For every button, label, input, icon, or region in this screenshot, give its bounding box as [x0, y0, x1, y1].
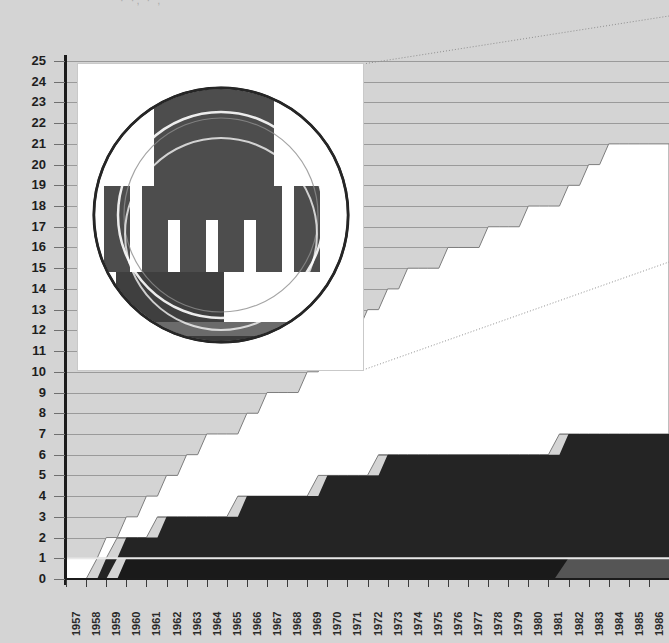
y-tick-10 — [54, 372, 65, 373]
x-axis-label-1973: 1973 — [392, 612, 404, 636]
x-axis-label-1965: 1965 — [231, 612, 243, 636]
x-axis-label-1979: 1979 — [512, 612, 524, 636]
y-tick-1 — [54, 558, 65, 559]
y-axis-label-9: 9 — [18, 387, 46, 399]
y-tick-4 — [54, 496, 65, 497]
x-tick-1957 — [66, 580, 67, 587]
y-axis-label-6: 6 — [18, 449, 46, 461]
y-tick-7 — [54, 434, 65, 435]
x-axis-label-1964: 1964 — [211, 612, 223, 636]
x-tick-1970 — [327, 580, 328, 587]
x-tick-1966 — [247, 580, 248, 587]
x-axis-label-1957: 1957 — [70, 612, 82, 636]
x-axis-label-1985: 1985 — [633, 612, 645, 636]
y-axis-label-16: 16 — [18, 241, 46, 253]
y-tick-6 — [54, 455, 65, 456]
x-axis-label-1962: 1962 — [171, 612, 183, 636]
x-tick-1969 — [307, 580, 308, 587]
y-tick-25 — [54, 61, 65, 62]
x-axis-label-1968: 1968 — [291, 612, 303, 636]
y-tick-11 — [54, 351, 65, 352]
x-axis-label-1983: 1983 — [593, 612, 605, 636]
x-axis-label-1967: 1967 — [271, 612, 283, 636]
x-tick-1976 — [448, 580, 449, 587]
x-tick-1968 — [287, 580, 288, 587]
x-axis-label-1984: 1984 — [613, 612, 625, 636]
y-axis-label-1: 1 — [18, 552, 46, 564]
x-axis-label-1974: 1974 — [412, 612, 424, 636]
y-tick-20 — [54, 165, 65, 166]
x-axis-label-1978: 1978 — [492, 612, 504, 636]
y-axis-label-20: 20 — [18, 159, 46, 171]
y-axis-label-4: 4 — [18, 490, 46, 502]
x-tick-1986 — [649, 580, 650, 587]
y-tick-14 — [54, 289, 65, 290]
y-axis-label-3: 3 — [18, 511, 46, 523]
y-axis-label-21: 21 — [18, 138, 46, 150]
x-tick-1977 — [468, 580, 469, 587]
x-axis-label-1972: 1972 — [372, 612, 384, 636]
institution-logo-icon — [90, 74, 352, 362]
y-tick-23 — [54, 102, 65, 103]
y-tick-15 — [54, 268, 65, 269]
x-axis-label-1960: 1960 — [130, 612, 142, 636]
x-tick-1981 — [548, 580, 549, 587]
x-tick-1971 — [347, 580, 348, 587]
y-axis-label-17: 17 — [18, 221, 46, 233]
y-axis-label-10: 10 — [18, 366, 46, 378]
x-axis-label-1970: 1970 — [331, 612, 343, 636]
y-tick-22 — [54, 123, 65, 124]
x-tick-1965 — [227, 580, 228, 587]
y-axis-label-7: 7 — [18, 428, 46, 440]
x-tick-1959 — [106, 580, 107, 587]
y-tick-12 — [54, 330, 65, 331]
x-tick-1982 — [569, 580, 570, 587]
y-axis-label-13: 13 — [18, 304, 46, 316]
x-tick-1979 — [508, 580, 509, 587]
x-tick-1960 — [126, 580, 127, 587]
y-axis-label-12: 12 — [18, 324, 46, 336]
x-axis-label-1969: 1969 — [311, 612, 323, 636]
x-axis-label-1976: 1976 — [452, 612, 464, 636]
x-tick-1974 — [408, 580, 409, 587]
x-axis-label-1980: 1980 — [532, 612, 544, 636]
y-tick-8 — [54, 413, 65, 414]
x-axis-label-1966: 1966 — [251, 612, 263, 636]
x-tick-1985 — [629, 580, 630, 587]
y-axis-label-5: 5 — [18, 469, 46, 481]
x-tick-1978 — [488, 580, 489, 587]
x-tick-1967 — [267, 580, 268, 587]
y-tick-3 — [54, 517, 65, 518]
y-axis-label-19: 19 — [18, 179, 46, 191]
x-axis-label-1975: 1975 — [432, 612, 444, 636]
y-axis-label-14: 14 — [18, 283, 46, 295]
x-tick-1961 — [146, 580, 147, 587]
area-band-gray-overlay — [554, 558, 669, 579]
x-axis-label-1963: 1963 — [191, 612, 203, 636]
y-tick-9 — [54, 393, 65, 394]
y-axis-label-2: 2 — [18, 532, 46, 544]
y-tick-21 — [54, 144, 65, 145]
x-axis-label-1971: 1971 — [351, 612, 363, 636]
x-tick-1973 — [388, 580, 389, 587]
logo-inset-panel — [78, 64, 363, 370]
y-tick-5 — [54, 475, 65, 476]
y-tick-24 — [54, 82, 65, 83]
x-axis-label-1981: 1981 — [552, 612, 564, 636]
x-tick-1983 — [589, 580, 590, 587]
y-tick-2 — [54, 538, 65, 539]
x-tick-1975 — [428, 580, 429, 587]
x-axis-label-1959: 1959 — [110, 612, 122, 636]
x-axis-label-1986: 1986 — [653, 612, 665, 636]
y-axis-label-0: 0 — [18, 573, 46, 585]
y-axis-label-11: 11 — [18, 345, 46, 357]
y-tick-17 — [54, 227, 65, 228]
y-tick-18 — [54, 206, 65, 207]
x-tick-1984 — [609, 580, 610, 587]
x-axis-label-1982: 1982 — [573, 612, 585, 636]
x-axis-label-1977: 1977 — [472, 612, 484, 636]
x-tick-1980 — [528, 580, 529, 587]
y-axis-label-24: 24 — [18, 76, 46, 88]
x-tick-1972 — [368, 580, 369, 587]
y-axis-label-15: 15 — [18, 262, 46, 274]
